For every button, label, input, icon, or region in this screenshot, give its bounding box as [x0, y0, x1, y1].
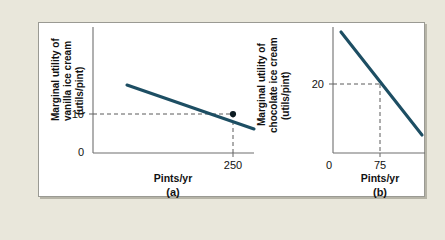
- chart-a-x-axis-title: Pints/yr: [154, 172, 193, 184]
- chart-b-x-tick-label-75: 75: [374, 159, 386, 171]
- chart-b-x-tick-label-0: 0: [326, 159, 332, 171]
- chart-a-x-tick-label-250: 250: [224, 159, 242, 171]
- chart-b-ylabel-line2: chocolate ice cream: [268, 37, 279, 133]
- chart-b-caption: (b): [373, 186, 387, 198]
- chart-b-y-tick-label-20: 20: [312, 78, 324, 90]
- chart-a-intersection-dot: [230, 111, 236, 117]
- chart-a-curve: [127, 85, 254, 129]
- chart-a-y-tick-label-10: 10: [72, 108, 84, 120]
- chart-a-caption: (a): [166, 186, 180, 198]
- figure-panel-inner: Marginal utility of vanilla ice cream (u…: [39, 23, 424, 196]
- chart-b-ylabel-line3: (utils/pint): [280, 72, 291, 120]
- chart-b-curve: [341, 32, 422, 135]
- chart-b-group: Marginal utility of chocolate ice cream …: [256, 27, 425, 198]
- chart-a-ylabel-line1: Marginal utility of: [50, 38, 61, 121]
- two-panel-chart-svg: Marginal utility of vanilla ice cream (u…: [39, 23, 426, 198]
- chart-b-ylabel-line1: Marginal utility of: [256, 43, 267, 126]
- figure-panel: Marginal utility of vanilla ice cream (u…: [38, 22, 425, 197]
- chart-a-y-tick-label-0: 0: [78, 146, 84, 158]
- chart-b-x-axis-title: Pints/yr: [361, 172, 400, 184]
- chart-b-y-axis-title: Marginal utility of chocolate ice cream …: [256, 37, 291, 133]
- chart-a-group: Marginal utility of vanilla ice cream (u…: [50, 27, 254, 198]
